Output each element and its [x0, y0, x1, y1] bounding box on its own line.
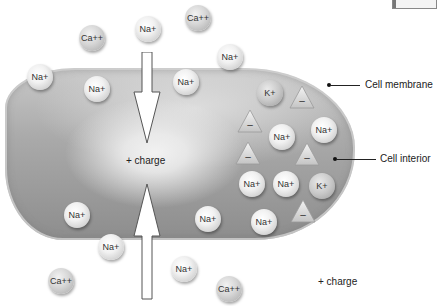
- na-ion: Na+: [273, 171, 299, 197]
- ion-label: Ca++: [50, 276, 72, 286]
- ion-label: Na+: [278, 179, 295, 189]
- cell-interior-label: Cell interior: [380, 153, 431, 164]
- membrane-pointer-line: [330, 85, 360, 86]
- ion-label: Na+: [256, 217, 273, 227]
- ca-ion: Ca++: [48, 268, 74, 294]
- cell-membrane-label: Cell membrane: [365, 79, 433, 90]
- charge-outside-label: + charge: [318, 276, 357, 287]
- ion-label: Ca++: [81, 33, 103, 43]
- na-ion: Na+: [98, 234, 124, 260]
- ca-ion: Ca++: [216, 276, 242, 302]
- ion-label: K+: [264, 88, 275, 98]
- cropped-corner-box: [392, 0, 437, 9]
- ion-label: Na+: [274, 132, 291, 142]
- anion-label: –: [289, 95, 315, 106]
- ion-label: Na+: [200, 214, 217, 224]
- interior-pointer-line: [336, 159, 376, 160]
- na-ion: Na+: [217, 44, 243, 70]
- ion-label: Na+: [69, 210, 86, 220]
- ion-label: Na+: [178, 77, 195, 87]
- na-ion: Na+: [173, 69, 199, 95]
- ion-label: Na+: [140, 24, 157, 34]
- na-ion: Na+: [269, 124, 295, 150]
- anion-label: –: [294, 152, 320, 163]
- ca-ion: Ca++: [185, 5, 211, 31]
- na-ion: Na+: [239, 171, 265, 197]
- anion-label: –: [290, 209, 316, 220]
- charge-inside-label: + charge: [126, 155, 165, 166]
- ion-label: Na+: [103, 242, 120, 252]
- ion-label: Na+: [89, 84, 106, 94]
- na-ion: Na+: [195, 206, 221, 232]
- down-arrow-icon: [133, 52, 161, 144]
- na-ion: Na+: [135, 16, 161, 42]
- ion-label: Ca++: [218, 284, 240, 294]
- ion-label: Na+: [32, 72, 49, 82]
- na-ion: Na+: [64, 202, 90, 228]
- na-ion: Na+: [311, 117, 337, 143]
- ion-label: Na+: [244, 179, 261, 189]
- anion-triangle-icon: –: [237, 109, 263, 133]
- na-ion: Na+: [251, 209, 277, 235]
- anion-label: –: [235, 151, 261, 162]
- na-ion: Na+: [171, 256, 197, 282]
- ion-label: Ca++: [187, 13, 209, 23]
- anion-triangle-icon: –: [294, 142, 320, 166]
- k-ion: K+: [309, 173, 335, 199]
- anion-label: –: [237, 119, 263, 130]
- anion-triangle-icon: –: [290, 199, 316, 223]
- up-arrow-icon: [133, 184, 161, 300]
- na-ion: Na+: [27, 64, 53, 90]
- ca-ion: Ca++: [79, 25, 105, 51]
- ion-label: Na+: [176, 264, 193, 274]
- k-ion: K+: [257, 80, 283, 106]
- na-ion: Na+: [84, 76, 110, 102]
- ion-label: Na+: [316, 125, 333, 135]
- ion-label: Na+: [222, 52, 239, 62]
- anion-triangle-icon: –: [235, 141, 261, 165]
- anion-triangle-icon: –: [289, 85, 315, 109]
- ion-label: K+: [316, 181, 327, 191]
